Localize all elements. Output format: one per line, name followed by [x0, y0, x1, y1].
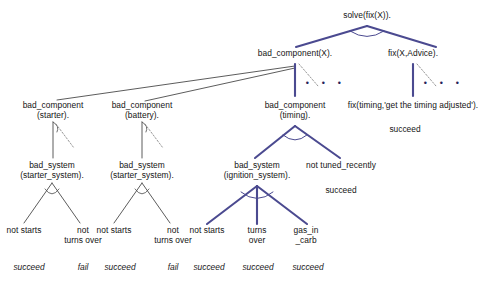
edge-badcomponent-thin — [57, 66, 295, 101]
leaf-3: not starts — [97, 226, 132, 236]
node-bad-component-battery: bad_component (battery). — [112, 101, 173, 120]
result-not-tuned-recently: succeed — [325, 186, 356, 196]
node-bad-component-timing: bad_component (timing). — [265, 101, 326, 120]
leaf-1: not starts — [7, 226, 42, 236]
node-bad-system-ignition: bad_system (ignition_system). — [224, 161, 291, 180]
result-fix-timing: succeed — [389, 125, 420, 135]
leaf-1-result: succeed — [13, 263, 44, 273]
leaf-4-result: fail — [168, 263, 179, 273]
arc-timing — [283, 135, 307, 140]
node-fix-x-advice: fix(X,Advice). — [388, 49, 438, 59]
leaf-5-result: succeed — [193, 263, 224, 273]
edge-bs2-branch — [114, 183, 170, 223]
leaf-4: not turns over — [154, 226, 192, 245]
leaf-6-result: succeed — [242, 263, 273, 273]
node-bad-system-starter-2: bad_system (starter_system). — [110, 161, 174, 180]
node-root: solve(fix(X)). — [343, 11, 391, 21]
edge-timing-branch — [255, 126, 340, 158]
proof-tree-figure: solve(fix(X)). bad_component(X). fix(X,A… — [0, 0, 492, 290]
arc-battery — [142, 122, 147, 132]
leaf-3-result: succeed — [104, 263, 135, 273]
tree-edges — [0, 0, 492, 290]
node-fix-timing: fix(timing,'get the timing adjusted'). — [348, 101, 478, 111]
ellipsis-bad-component: • • • — [306, 78, 346, 88]
edge-bs1-branch — [24, 183, 80, 223]
node-not-tuned-recently: not tuned_recently — [306, 161, 376, 171]
leaf-7-result: succeed — [292, 263, 323, 273]
node-bad-component-x: bad_component(X). — [258, 49, 332, 59]
arc-root — [350, 31, 384, 37]
ellipsis-fix: • • • — [424, 78, 464, 88]
edge-starter-dashed — [56, 124, 74, 148]
arc-starter — [53, 122, 58, 132]
leaf-7: gas_in _carb — [294, 226, 319, 245]
edge-battery-dashed — [145, 124, 163, 148]
leaf-6: turns over — [248, 226, 267, 245]
edge-ignition-branch — [207, 186, 307, 224]
node-bad-system-starter-1: bad_system (starter_system). — [20, 161, 84, 180]
leaf-2-result: fail — [78, 263, 89, 273]
leaf-5: not starts — [190, 226, 225, 236]
node-bad-component-starter: bad_component (starter). — [23, 101, 84, 120]
